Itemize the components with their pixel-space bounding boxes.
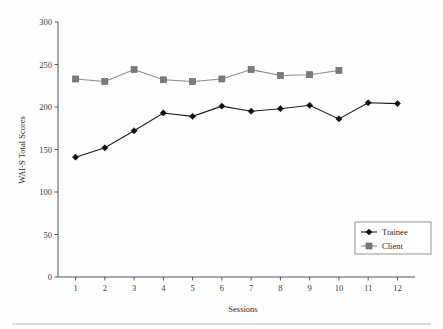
y-tick-label: 0 <box>48 272 52 282</box>
x-tick-label: 2 <box>103 283 107 293</box>
data-point-client[interactable] <box>190 79 196 85</box>
x-tick-label: 8 <box>278 283 282 293</box>
x-tick-label: 11 <box>364 283 372 293</box>
x-tick-label: 12 <box>393 283 402 293</box>
data-point-client[interactable] <box>277 73 283 79</box>
x-axis-title: Sessions <box>228 304 257 314</box>
x-tick-label: 1 <box>73 283 77 293</box>
wai-s-total-scores-line-chart: 050100150200250300 123456789101112 Train… <box>0 0 443 329</box>
y-tick-label: 300 <box>39 17 52 27</box>
x-tick-label: 9 <box>308 283 312 293</box>
legend-marker-client <box>366 243 372 249</box>
x-tick-label: 6 <box>220 283 224 293</box>
x-tick-label: 5 <box>190 283 194 293</box>
data-point-client[interactable] <box>160 77 166 83</box>
y-tick-label: 50 <box>44 230 53 240</box>
y-tick-label: 250 <box>39 60 52 70</box>
data-point-client[interactable] <box>131 67 137 73</box>
data-point-client[interactable] <box>102 79 108 85</box>
y-tick-label: 200 <box>39 102 52 112</box>
legend-label-trainee: Trainee <box>382 227 408 237</box>
x-tick-label: 3 <box>132 283 136 293</box>
data-point-client[interactable] <box>336 67 342 73</box>
x-tick-label: 4 <box>161 283 166 293</box>
x-tick-label: 10 <box>335 283 344 293</box>
data-point-client[interactable] <box>73 76 79 82</box>
y-tick-label: 100 <box>39 187 52 197</box>
data-point-client[interactable] <box>219 76 225 82</box>
data-point-client[interactable] <box>248 67 254 73</box>
data-point-client[interactable] <box>307 72 313 78</box>
y-axis-title: WAI-S Total Scores <box>17 116 27 184</box>
chart-figure: 050100150200250300 123456789101112 Train… <box>0 0 443 329</box>
y-tick-label: 150 <box>39 145 52 155</box>
x-tick-label: 7 <box>249 283 253 293</box>
chart-legend[interactable]: TraineeClient <box>355 222 431 254</box>
legend-label-client: Client <box>382 241 403 251</box>
